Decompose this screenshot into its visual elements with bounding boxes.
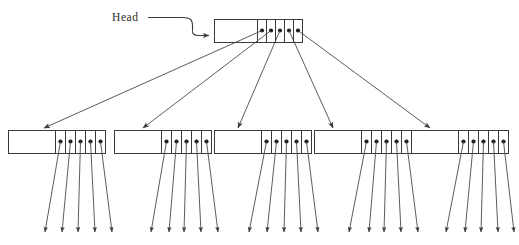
edge-root-to-child-3 <box>238 31 280 129</box>
edge-root-to-child-1 <box>44 31 262 129</box>
child-node-4-leaf-arrows <box>349 142 418 233</box>
leaf-arrow-3-4 <box>297 142 302 233</box>
child-node-5-leaf-arrows <box>446 142 514 233</box>
leaf-arrow-2-2 <box>169 142 177 233</box>
leaf-arrow-3-3 <box>284 142 287 233</box>
child-node-3-leaf-arrows <box>249 142 318 233</box>
diagram-canvas: Head <box>0 0 519 245</box>
leaf-arrow-5-2 <box>465 142 474 233</box>
leaf-arrow-3-5 <box>307 142 319 233</box>
leaf-arrow-4-3 <box>384 142 387 233</box>
leaf-arrow-1-4 <box>91 142 96 233</box>
edge-root-to-child-5 <box>298 31 430 129</box>
leaf-arrow-2-4 <box>197 142 202 233</box>
leaf-arrow-4-4 <box>397 142 402 233</box>
leaf-arrow-1-3 <box>78 142 81 233</box>
child-node-2-leaf-arrows <box>151 142 218 233</box>
leaf-arrow-4-2 <box>369 142 377 233</box>
head-pointer-line <box>148 18 193 32</box>
leaf-arrow-1-5 <box>101 142 113 233</box>
leaf-arrow-5-3 <box>481 142 484 233</box>
leaf-arrow-2-5 <box>207 142 219 233</box>
leaf-arrow-2-3 <box>184 142 187 233</box>
leaf-arrow-1-1 <box>45 142 61 233</box>
leaf-arrow-5-4 <box>494 142 499 233</box>
leaf-arrow-5-5 <box>504 142 515 233</box>
leaf-arrow-4-1 <box>349 142 367 233</box>
head-label: Head <box>112 11 139 23</box>
leaf-arrow-5-1 <box>446 142 464 233</box>
edge-root-to-child-2 <box>143 31 271 129</box>
leaf-arrow-3-1 <box>249 142 267 233</box>
root-to-children-edges <box>44 31 430 129</box>
edge-root-to-child-4 <box>289 31 333 129</box>
node-tree-diagram: Head <box>0 0 519 245</box>
head-pointer-arrow <box>193 32 210 36</box>
child-node-1-leaf-arrows <box>45 142 112 233</box>
leaf-arrow-1-2 <box>62 142 71 233</box>
leaf-arrow-4-5 <box>407 142 419 233</box>
leaf-arrow-2-1 <box>151 142 167 233</box>
leaf-arrow-3-2 <box>267 142 277 233</box>
